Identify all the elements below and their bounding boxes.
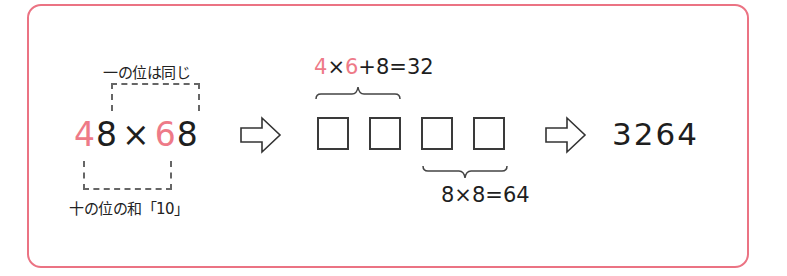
top-formula-a: 4: [314, 55, 327, 79]
label-tens-sum: 十の位の和「10」: [69, 197, 189, 218]
main-expression: 48×68: [74, 118, 199, 151]
answer-box-2: [369, 117, 401, 150]
top-brace-icon: [315, 86, 401, 100]
tens-digit-b: 6: [155, 115, 177, 154]
tens-digit-bracket: [83, 161, 172, 190]
right-arrow-icon: [545, 117, 587, 153]
answer-box-3: [421, 117, 453, 150]
top-formula-b: 6: [345, 55, 358, 79]
answer-box-4: [473, 117, 505, 150]
tens-digit-a: 4: [74, 115, 96, 154]
times-sign: ×: [122, 115, 151, 154]
right-arrow-icon: [240, 117, 282, 153]
label-ones-same: 一の位は同じ: [103, 61, 190, 82]
bottom-brace-icon: [422, 165, 508, 179]
ones-digit-b: 8: [177, 115, 199, 154]
top-formula: 4×6+8=32: [314, 57, 434, 78]
result-value: 3264: [612, 119, 699, 150]
top-formula-rest: +8=32: [358, 55, 433, 79]
bottom-formula: 8×8=64: [441, 185, 530, 206]
top-formula-times: ×: [327, 55, 345, 79]
answer-box-1: [317, 117, 349, 150]
ones-digit-a: 8: [96, 115, 118, 154]
ones-digit-bracket: [111, 83, 200, 111]
